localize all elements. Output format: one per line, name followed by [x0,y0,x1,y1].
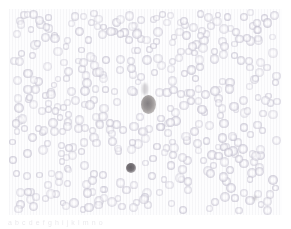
caption-artifact-text: a b c d e f g h i j k l m n o [8,218,158,227]
leukocyte-layer [9,9,282,215]
micrograph-figure: a b c d e f g h i j k l m n o [0,0,291,229]
leukocyte-small-cell [126,163,136,173]
microscope-field [9,9,282,215]
caption-artifact: a b c d e f g h i j k l m n o [8,218,158,227]
leukocyte-large-cell [141,95,156,114]
